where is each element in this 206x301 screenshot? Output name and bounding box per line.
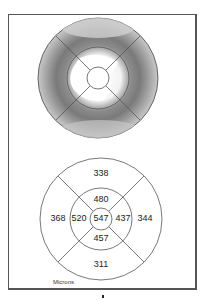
figure-canvas: 338 368 344 311 480 520 437 457 547 Micr… — [0, 0, 206, 301]
outer-right-value: 344 — [137, 213, 152, 223]
inner-inferior-value: 457 — [93, 233, 108, 243]
units-label: Microns — [53, 279, 74, 285]
outer-inferior-value: 311 — [94, 259, 108, 269]
etdrs-grid: 338 368 344 311 480 520 437 457 547 Micr… — [40, 158, 162, 285]
inner-right-value: 437 — [115, 213, 130, 223]
center-value: 547 — [93, 213, 108, 223]
inner-left-value: 520 — [71, 213, 86, 223]
outer-left-value: 368 — [50, 213, 65, 223]
inner-superior-value: 480 — [93, 194, 108, 204]
marker-dot — [102, 295, 104, 298]
outer-superior-value: 338 — [93, 168, 108, 178]
thickness-map — [38, 14, 158, 140]
